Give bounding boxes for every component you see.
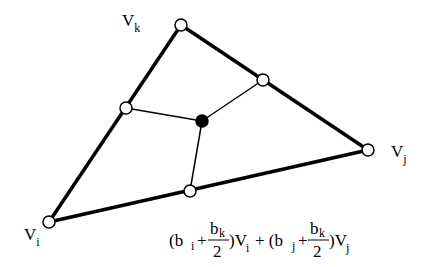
svg-text:b: b — [210, 219, 219, 238]
edge-vk-vj — [181, 25, 368, 150]
edge-vi-vk — [49, 25, 181, 222]
svg-text:2: 2 — [213, 242, 222, 261]
label-vi: Vi — [24, 225, 40, 249]
inner-line-bottom — [190, 121, 202, 191]
svg-text:+: + — [197, 231, 207, 250]
svg-text:i: i — [246, 241, 250, 255]
svg-text:+: + — [298, 231, 308, 250]
svg-text:2: 2 — [313, 242, 322, 261]
triangle-diagram: Vk Vj Vi (b i + b k 2 )V i + (b j + b k … — [0, 0, 425, 267]
vertex-vi-node — [43, 216, 55, 228]
edge-vi-vj — [49, 150, 368, 222]
vertex-vj-node — [362, 144, 374, 156]
label-vj: Vj — [391, 142, 407, 166]
svg-text:b: b — [310, 219, 319, 238]
inner-line-left — [126, 108, 202, 121]
svg-text:)V: )V — [229, 231, 248, 250]
svg-text:j: j — [345, 241, 349, 255]
vertex-vk-node — [175, 19, 187, 31]
center-node — [196, 115, 208, 127]
svg-text:j: j — [291, 239, 295, 253]
formula: (b i + b k 2 )V i + (b j + b k 2 )V j — [169, 219, 349, 261]
inner-line-right — [202, 80, 263, 121]
svg-text:+ (b: + (b — [255, 231, 283, 250]
svg-text:k: k — [319, 226, 325, 240]
svg-text:k: k — [219, 226, 225, 240]
svg-text:)V: )V — [329, 231, 348, 250]
midpoint-kj-node — [257, 74, 269, 86]
midpoint-ik-node — [120, 102, 132, 114]
label-vk: Vk — [122, 11, 140, 35]
svg-text:i: i — [191, 239, 195, 253]
svg-text:(b: (b — [169, 231, 183, 250]
midpoint-ij-node — [184, 185, 196, 197]
